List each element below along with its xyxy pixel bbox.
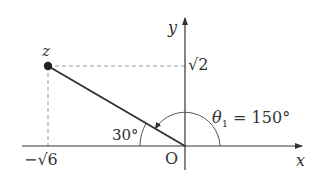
imag-radicand: 2 — [198, 55, 208, 74]
equals-sign: = — [228, 108, 252, 127]
argument-arc — [156, 112, 221, 146]
complex-plane-diagram: z y x O √2 −√6 30° θ1 = 150° — [0, 0, 324, 182]
point-z — [44, 62, 52, 70]
point-z-label: z — [42, 44, 50, 59]
imag-part-label: √2 — [188, 57, 208, 73]
real-part-label: −√6 — [24, 152, 58, 168]
thirty-degree-arc — [140, 124, 146, 147]
thirty-degree-label: 30° — [112, 128, 139, 143]
argument-label: θ1 = 150° — [212, 110, 290, 129]
theta-symbol: θ — [212, 108, 222, 127]
real-radicand: 6 — [48, 150, 58, 169]
sqrt-symbol: √ — [37, 150, 47, 169]
origin-label: O — [165, 151, 178, 167]
minus-sign: − — [24, 150, 37, 169]
sqrt-symbol: √ — [188, 55, 198, 74]
argument-value: 150° — [252, 108, 291, 127]
y-axis-label: y — [168, 20, 177, 36]
x-axis-label: x — [296, 153, 305, 169]
